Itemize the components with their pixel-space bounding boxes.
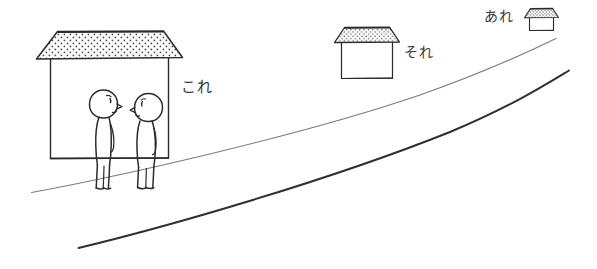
far-house bbox=[525, 8, 559, 30]
figure-right-leg-inner bbox=[146, 169, 147, 188]
far-house-body bbox=[530, 17, 554, 30]
figure-right-leg-front bbox=[153, 167, 154, 187]
figure-right-foot-front bbox=[146, 187, 154, 188]
road-speck bbox=[163, 211, 166, 214]
near-house-roof-ridge bbox=[58, 32, 164, 33]
figure-left-eye bbox=[110, 98, 111, 102]
figure-right-leg-back bbox=[138, 168, 139, 188]
figure-left-leg-back bbox=[96, 165, 97, 188]
mid-house-roof bbox=[335, 27, 400, 42]
label-sore: それ bbox=[404, 45, 434, 59]
near-house-roof bbox=[37, 31, 183, 59]
figure-left-foot-front bbox=[103, 188, 110, 189]
figure-left-leg-inner bbox=[103, 166, 104, 188]
mid-house-body bbox=[342, 42, 393, 79]
label-kore: これ bbox=[181, 80, 213, 95]
figure-right-head bbox=[135, 94, 163, 122]
figure-right-foot-back bbox=[138, 188, 146, 189]
label-are: あれ bbox=[484, 9, 514, 23]
far-house-roof bbox=[525, 8, 559, 17]
figure-left-head bbox=[90, 90, 118, 118]
figure-left-leg-front bbox=[108, 165, 109, 188]
near-house-base-line bbox=[51, 158, 169, 159]
mid-house bbox=[335, 27, 400, 78]
illustration-canvas: これ それ あれ bbox=[0, 0, 597, 269]
scene-drawing bbox=[0, 0, 597, 269]
